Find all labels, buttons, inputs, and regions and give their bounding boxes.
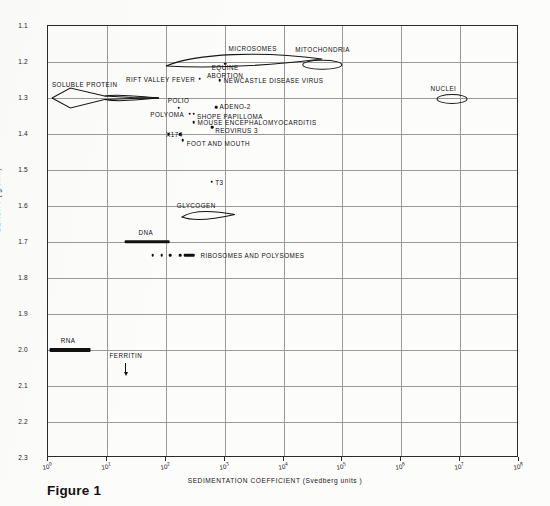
gridline-horizontal [48, 170, 517, 171]
label-reovirus-3: REOVIRUS 3 [215, 126, 258, 133]
label-x174: X174 [166, 130, 183, 137]
x-tick-1e4: 104 [277, 460, 288, 471]
region-bar-polysomes [184, 254, 195, 257]
y-tick-2-2: 2.2 [18, 418, 28, 425]
gridline-horizontal [48, 350, 517, 351]
gridline-vertical [401, 26, 402, 456]
label-rna: RNA [61, 336, 76, 343]
figure-container: 1.11.21.31.41.51.61.71.81.92.02.12.22.3 … [0, 0, 550, 506]
label-soluble-protein: SOLUBLE PROTEIN [52, 81, 118, 88]
y-tick-2-1: 2.1 [18, 382, 28, 389]
y-tick-1-3: 1.3 [18, 94, 28, 101]
gridline-horizontal [48, 386, 517, 387]
gridline-horizontal [48, 314, 517, 315]
label-t3: T3 [215, 178, 223, 185]
label-glycogen: GLYCOGEN [177, 201, 216, 208]
data-point-foot-and-mouth [182, 139, 185, 142]
y-tick-1-2: 1.2 [18, 58, 28, 65]
y-tick-2-3: 2.3 [18, 454, 28, 461]
data-point-shope-papilloma [193, 113, 196, 116]
label-rift-valley-fever: RIFT VALLEY FEVER [126, 75, 195, 82]
gridline-vertical [284, 26, 285, 456]
region-ellipse-nuclei [437, 94, 468, 104]
data-point-polio [177, 106, 180, 109]
y-tick-1-8: 1.8 [18, 274, 28, 281]
data-point-polyoma [188, 113, 191, 116]
label-dna: DNA [139, 228, 154, 235]
x-tick-1e2: 102 [159, 460, 170, 471]
label-adeno-2: ADENO-2 [220, 102, 251, 109]
x-tick-1e3: 103 [218, 460, 229, 471]
region-microsomes-lens [163, 50, 325, 72]
label-foot-and-mouth: FOOT AND MOUTH [187, 139, 250, 146]
data-point-ribosome-0 [151, 254, 154, 257]
label-microsomes: MICROSOMES [229, 45, 277, 52]
figure-caption: Figure 1 [47, 483, 101, 498]
gridline-horizontal [48, 278, 517, 279]
label-ferritin: FERRITIN [110, 352, 143, 359]
gridline-vertical [342, 26, 343, 456]
region-bar-rna [49, 348, 90, 352]
label-mouse-encephalomyocarditis: MOUSE ENCEPHALOMYOCARDITIS [197, 119, 316, 126]
region-glycogen-lens [179, 208, 238, 224]
data-point-reovirus-3 [211, 126, 214, 129]
gridline-horizontal [48, 242, 517, 243]
region-bar-dna [125, 240, 170, 243]
x-tick-1e8: 108 [512, 460, 523, 471]
gridline-horizontal [48, 422, 517, 423]
gridline-horizontal [48, 134, 517, 135]
plot-area: MICROSOMESMITOCHONDRIANUCLEISOLUBLE PROT… [47, 25, 518, 457]
label-mitochondria: MITOCHONDRIA [295, 45, 350, 52]
x-tick-1e7: 107 [454, 460, 465, 471]
data-point-ribosome-1 [160, 254, 163, 257]
x-tick-1e0: 100 [41, 460, 52, 471]
gridline-vertical [460, 26, 461, 456]
y-axis-title: DENSITY ( g/cm3 ) [0, 168, 1, 232]
y-tick-1-5: 1.5 [18, 166, 28, 173]
data-point-rift-valley-fever [199, 77, 202, 80]
data-point-ribosome-2 [169, 254, 172, 257]
y-tick-1-1: 1.1 [18, 22, 28, 29]
label-polio: POLIO [168, 96, 190, 103]
y-tick-1-7: 1.7 [18, 238, 28, 245]
y-tick-2-0: 2.0 [18, 346, 28, 353]
x-tick-1e6: 106 [395, 460, 406, 471]
y-tick-1-9: 1.9 [18, 310, 28, 317]
label-polyoma: POLYOMA [150, 110, 184, 117]
label-ribosomes-polysomes: RIBOSOMES AND POLYSOMES [201, 252, 305, 259]
y-tick-1-6: 1.6 [18, 202, 28, 209]
label-newcastle-disease-virus: NEWCASTLE DISEASE VIRUS [224, 77, 324, 84]
data-point-ribosome-3 [179, 254, 182, 257]
gridline-vertical [225, 26, 226, 456]
data-point-t3 [210, 181, 213, 184]
region-ellipse-mitochondria [303, 60, 342, 71]
gridline-horizontal [48, 206, 517, 207]
label-nuclei: NUCLEI [430, 84, 456, 91]
data-point-adeno-2 [215, 106, 218, 109]
x-tick-1e5: 105 [336, 460, 347, 471]
region-soluble-protein-lens [49, 85, 162, 111]
x-tick-1e1: 101 [100, 460, 111, 471]
data-point-newcastle-disease-virus [219, 79, 222, 82]
y-tick-1-4: 1.4 [18, 130, 28, 137]
data-point-mouse-encephalomyocarditis [193, 121, 196, 124]
